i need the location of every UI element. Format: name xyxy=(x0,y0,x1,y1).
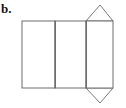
bottom-triangle-flap xyxy=(86,88,113,103)
right-rectangle-face xyxy=(86,21,113,88)
left-rectangle-face xyxy=(22,21,55,88)
middle-rectangle-face xyxy=(55,21,86,88)
figure-container: b. xyxy=(0,0,126,108)
net-diagram xyxy=(0,0,126,108)
top-triangle-flap xyxy=(86,5,113,21)
